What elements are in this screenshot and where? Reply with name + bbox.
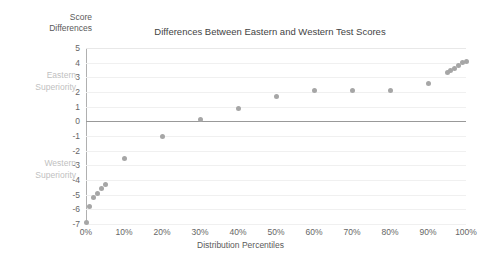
chart-title: Differences Between Eastern and Western … (130, 26, 410, 37)
y-tick-label: -4 (58, 176, 80, 185)
data-point (95, 191, 100, 196)
scatter-chart: Differences Between Eastern and Western … (0, 0, 481, 264)
data-point (426, 81, 431, 86)
data-point (350, 88, 355, 93)
x-tick-label: 100% (446, 228, 481, 237)
x-tick-label: 30% (180, 228, 220, 237)
gridline (86, 48, 466, 49)
y-tick-label: 2 (58, 88, 80, 97)
gridline (86, 195, 466, 196)
y-tick-label: -5 (58, 191, 80, 200)
y-tick-label: 5 (58, 44, 80, 53)
data-point (103, 182, 108, 187)
y-axis-title-line1: Score (36, 12, 92, 23)
zero-line (86, 121, 466, 122)
gridline (86, 136, 466, 137)
gridline (86, 77, 466, 78)
gridline (86, 151, 466, 152)
y-tick-label: -2 (58, 147, 80, 156)
data-point (274, 94, 279, 99)
data-point (84, 220, 89, 225)
data-point (91, 195, 96, 200)
y-tick-label: 0 (58, 117, 80, 126)
data-point (160, 134, 165, 139)
gridline (86, 107, 466, 108)
gridline (86, 209, 466, 210)
x-tick-label: 20% (142, 228, 182, 237)
data-point (87, 204, 92, 209)
gridline (86, 224, 466, 225)
data-point (236, 106, 241, 111)
y-tick-label: -1 (58, 132, 80, 141)
y-axis-title: Score Differences (36, 12, 92, 34)
y-tick-label: -3 (58, 161, 80, 170)
x-tick-label: 0% (66, 228, 106, 237)
y-axis-title-line2: Differences (36, 23, 92, 34)
x-tick-label: 50% (256, 228, 296, 237)
data-point (312, 88, 317, 93)
y-tick-label: 1 (58, 103, 80, 112)
x-tick-label: 60% (294, 228, 334, 237)
x-tick-label: 90% (408, 228, 448, 237)
x-tick-label: 40% (218, 228, 258, 237)
gridline (86, 92, 466, 93)
x-tick-label: 80% (370, 228, 410, 237)
data-point (388, 88, 393, 93)
data-point (464, 59, 469, 64)
x-tick-label: 10% (104, 228, 144, 237)
gridline (86, 165, 466, 166)
x-axis-title: Distribution Percentiles (0, 240, 481, 250)
data-point (198, 117, 203, 122)
data-point (99, 186, 104, 191)
y-tick-label: 4 (58, 59, 80, 68)
y-tick-label: 3 (58, 73, 80, 82)
plot-area (86, 48, 466, 224)
y-tick-label: -6 (58, 205, 80, 214)
data-point (122, 156, 127, 161)
gridline (86, 63, 466, 64)
gridline (86, 180, 466, 181)
x-tick-label: 70% (332, 228, 372, 237)
